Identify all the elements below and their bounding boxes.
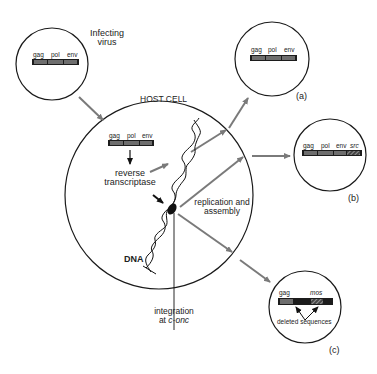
retrovirus-oncogene-diagram: Infecting virus gag pol env HOST CELL ga… [0,0,377,374]
gene-label: env [142,132,152,139]
dna-label: DNA [124,255,144,264]
gene-label: pol [268,46,277,53]
label-line: assembly [190,207,254,216]
gene-label: gag [251,46,262,53]
label-line: at c-onc [148,316,200,325]
label-line: transcriptase [100,178,160,187]
replication-assembly-label: replication and assembly [190,198,254,216]
reverse-transcriptase-label: reverse transcriptase [100,169,160,188]
gene-label: env [284,46,294,53]
gene-label: pol [51,51,60,58]
gene-label: gag [279,289,290,296]
gene-label: gag [303,142,314,149]
integration-label: integration at c-onc [148,307,200,325]
host-genome-bar [108,140,154,146]
gene-label: pol [127,132,136,139]
gene-label: src [350,142,359,149]
gene-label: pol [321,142,330,149]
outcome-c-genome-bar [278,298,333,320]
outcome-b-genome-bar [302,150,362,156]
reverse-transcriptase-pointer [153,195,163,203]
outcome-c-label: (c) [329,346,340,355]
outcome-a-genome-bar [250,55,297,61]
outcome-a-label: (a) [296,92,307,101]
host-cell-circle [65,101,253,289]
process-arrows [79,97,290,282]
deleted-sequences-label: deleted sequences [277,318,332,325]
virus-genome-bar [32,59,79,65]
infecting-virus-label: Infecting virus [84,29,130,48]
gene-label: mos [310,289,322,296]
outcome-b-label: (b) [348,194,359,203]
label-prefix: at [159,315,168,325]
outcome-c-circle [269,271,341,343]
gene-label: gag [109,132,120,139]
label-line: virus [84,38,130,47]
gene-label: env [67,51,77,58]
host-cell-title: HOST CELL [140,95,187,104]
gene-label: env [336,142,346,149]
gene-name-italic: c-onc [168,315,189,325]
gene-label: gag [33,51,44,58]
